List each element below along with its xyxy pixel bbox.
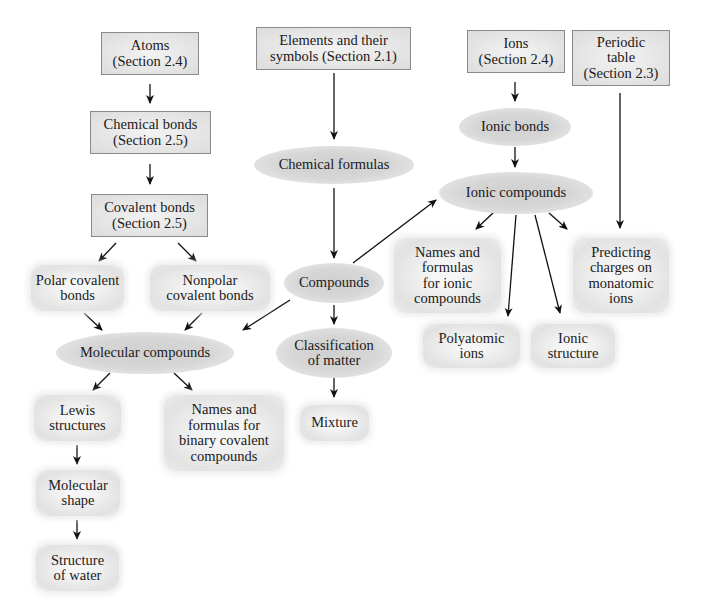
node-ionic-compounds: Ionic compounds	[439, 172, 593, 214]
node-label: Predicting charges on monatomic ions	[588, 245, 653, 307]
node-label: Covalent bonds (Section 2.5)	[104, 200, 195, 231]
node-ions: Ions (Section 2.4)	[467, 30, 565, 73]
node-names-binary: Names and formulas for binary covalent c…	[164, 395, 284, 471]
node-label: Polyatomic ions	[438, 331, 504, 362]
node-label: Compounds	[299, 275, 369, 291]
node-label: Molecular shape	[48, 478, 108, 509]
node-ionic-bonds: Ionic bonds	[459, 108, 571, 146]
node-label: Structure of water	[51, 553, 104, 584]
node-label: Elements and their symbols (Section 2.1)	[270, 33, 397, 64]
node-label: Atoms (Section 2.4)	[113, 38, 188, 69]
node-label: Polar covalent bonds	[36, 273, 119, 304]
node-mixture: Mixture	[300, 405, 369, 441]
node-label: Chemical bonds (Section 2.5)	[104, 117, 198, 148]
node-label: Ionic structure	[548, 331, 599, 362]
node-label: Periodic table (Section 2.3)	[584, 35, 659, 82]
node-ionic-structure: Ionic structure	[531, 324, 615, 368]
node-label: Ionic bonds	[481, 119, 549, 135]
node-molecular-shape: Molecular shape	[36, 470, 120, 516]
node-label: Molecular compounds	[80, 345, 210, 361]
node-periodic-table: Periodic table (Section 2.3)	[572, 30, 670, 86]
node-classification: Classification of matter	[276, 328, 392, 378]
node-polyatomic-ions: Polyatomic ions	[423, 324, 520, 368]
node-label: Mixture	[311, 415, 358, 431]
node-polar-covalent: Polar covalent bonds	[31, 265, 124, 311]
node-label: Ions (Section 2.4)	[479, 36, 554, 67]
node-lewis: Lewis structures	[34, 395, 121, 441]
node-label: Nonpolar covalent bonds	[166, 273, 253, 304]
node-chemical-formulas: Chemical formulas	[254, 146, 414, 184]
node-atoms: Atoms (Section 2.4)	[101, 32, 199, 75]
node-nonpolar-covalent: Nonpolar covalent bonds	[150, 265, 270, 311]
node-label: Ionic compounds	[466, 185, 566, 201]
node-chemical-bonds: Chemical bonds (Section 2.5)	[90, 111, 211, 154]
node-molecular-compounds: Molecular compounds	[56, 332, 234, 374]
node-structure-water: Structure of water	[36, 545, 119, 591]
node-label: Lewis structures	[49, 403, 105, 434]
node-predicting-charges: Predicting charges on monatomic ions	[573, 238, 669, 313]
node-label: Classification of matter	[294, 338, 374, 369]
node-label: Names and formulas for ionic compounds	[414, 245, 481, 307]
node-covalent-bonds: Covalent bonds (Section 2.5)	[91, 194, 208, 237]
node-label: Chemical formulas	[279, 157, 390, 173]
node-names-ionic: Names and formulas for ionic compounds	[394, 238, 501, 313]
node-label: Names and formulas for binary covalent c…	[179, 402, 269, 464]
node-compounds: Compounds	[284, 263, 384, 303]
node-elements: Elements and their symbols (Section 2.1)	[256, 27, 411, 70]
